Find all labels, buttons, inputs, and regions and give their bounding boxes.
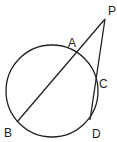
secant-diagram: P A B C D	[0, 0, 117, 142]
circle	[6, 45, 98, 137]
label-p: P	[108, 4, 116, 18]
label-c: C	[99, 77, 108, 91]
label-a: A	[68, 36, 76, 50]
label-d: D	[92, 127, 101, 141]
label-b: B	[4, 126, 12, 140]
